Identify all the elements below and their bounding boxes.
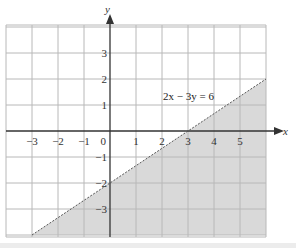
- y-axis-arrow-icon: [106, 14, 114, 24]
- y-tick-label: −1: [95, 151, 107, 163]
- y-tick-label: 2: [102, 73, 108, 85]
- x-tick-label: 2: [159, 135, 165, 147]
- y-axis-label: y: [104, 3, 110, 15]
- y-tick-label: 3: [102, 47, 108, 59]
- equation-label: 2x − 3y = 6: [163, 90, 214, 102]
- x-tick-label: 3: [185, 135, 191, 147]
- x-tick-label: 0: [101, 135, 107, 147]
- y-tick-label: −3: [95, 203, 107, 215]
- x-tick-label: −2: [52, 135, 64, 147]
- x-tick-label: 1: [133, 135, 139, 147]
- x-tick-label: −3: [26, 135, 38, 147]
- x-tick-label: 5: [237, 135, 243, 147]
- inequality-graph: −3−2−1012345321−1−2−3 2x − 3y = 6 x y: [0, 0, 296, 248]
- x-tick-label: 4: [211, 135, 217, 147]
- x-tick-label: −1: [78, 135, 90, 147]
- y-tick-label: −2: [95, 177, 107, 189]
- y-tick-label: 1: [102, 99, 108, 111]
- x-axis-label: x: [282, 125, 288, 137]
